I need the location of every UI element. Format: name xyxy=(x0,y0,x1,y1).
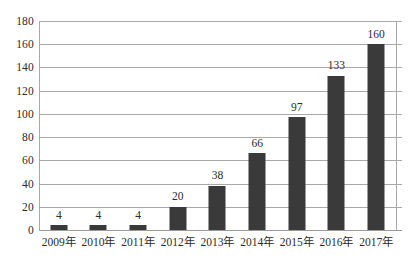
bar-value-label: 4 xyxy=(135,210,141,222)
bar-value-label: 20 xyxy=(172,191,184,203)
plot-area: 4 4 4 20 38 66 xyxy=(39,21,396,230)
x-axis-tick-label: 2014年 xyxy=(237,236,277,250)
bar-value-label: 38 xyxy=(212,170,224,182)
y-axis-tick-label: 160 xyxy=(4,39,34,51)
y-axis-tick-label: 0 xyxy=(4,225,34,237)
x-axis-tick-label: 2013年 xyxy=(198,236,238,250)
bar-value-label: 133 xyxy=(328,60,345,72)
x-axis-tick-label: 2017年 xyxy=(356,236,396,250)
table-row[interactable] xyxy=(368,44,385,230)
bar-slot: 160 xyxy=(356,21,396,230)
x-axis-baseline xyxy=(39,230,402,231)
table-row[interactable] xyxy=(288,117,305,230)
y-axis-tick-label: 120 xyxy=(4,86,34,98)
y-axis-tick-label: 80 xyxy=(4,132,34,144)
bar-series: 4 4 4 20 38 66 xyxy=(39,21,396,230)
bar-slot: 20 xyxy=(158,21,198,230)
bar-slot: 4 xyxy=(79,21,119,230)
table-row[interactable] xyxy=(328,76,345,230)
bar-value-label: 66 xyxy=(251,138,263,150)
bar-slot: 4 xyxy=(39,21,79,230)
table-row[interactable] xyxy=(209,186,226,230)
y-axis-tick-label: 100 xyxy=(4,109,34,121)
bar-slot: 66 xyxy=(237,21,277,230)
table-row[interactable] xyxy=(130,225,147,230)
y-axis-tick-label: 40 xyxy=(4,179,34,191)
table-row[interactable] xyxy=(90,225,107,230)
y-axis-tick-label: 20 xyxy=(4,202,34,214)
x-axis-tick-labels: 2009年 2010年 2011年 2012年 2013年 2014年 2015… xyxy=(39,236,396,254)
x-axis-tick-label: 2012年 xyxy=(158,236,198,250)
x-axis-tick-label: 2016年 xyxy=(317,236,357,250)
bar-slot: 97 xyxy=(277,21,317,230)
bar-value-label: 4 xyxy=(96,210,102,222)
bar-value-label: 97 xyxy=(291,102,303,114)
y-axis-tick-label: 140 xyxy=(4,62,34,74)
table-row[interactable] xyxy=(169,207,186,230)
y-axis-tick-label: 60 xyxy=(4,155,34,167)
x-axis-tick-label: 2010年 xyxy=(79,236,119,250)
bar-value-label: 4 xyxy=(56,210,62,222)
table-row[interactable] xyxy=(50,225,67,230)
table-row[interactable] xyxy=(249,153,266,230)
bar-slot: 38 xyxy=(198,21,238,230)
y-axis-tick-label: 180 xyxy=(4,16,34,28)
bar-chart: 180 160 140 120 100 80 60 40 20 0 4 xyxy=(0,0,416,266)
y-axis-line-right xyxy=(396,21,397,230)
bar-slot: 4 xyxy=(118,21,158,230)
x-axis-tick-label: 2009年 xyxy=(39,236,79,250)
bar-slot: 133 xyxy=(317,21,357,230)
x-axis-tick-label: 2011年 xyxy=(118,236,158,250)
bar-value-label: 160 xyxy=(368,29,385,41)
x-axis-tick-label: 2015年 xyxy=(277,236,317,250)
